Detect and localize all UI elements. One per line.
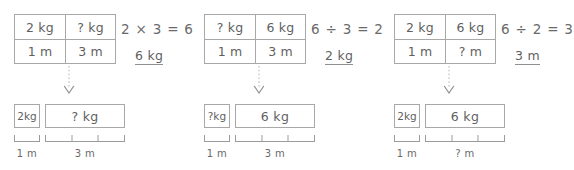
answer-text: 2 kg <box>325 48 353 65</box>
ratio-cell-top-right: 6 kg <box>255 15 305 39</box>
ratio-table: ? kg 6 kg 1 m 3 m <box>204 14 306 64</box>
equation-text: 6 ÷ 2 = 3 <box>501 21 574 37</box>
bar-segment-total: 6 kg <box>235 104 315 128</box>
ratio-cell-top-right: ? kg <box>65 15 115 39</box>
down-arrow-icon <box>442 66 456 98</box>
ratio-cell-bottom-left: 1 m <box>205 39 255 63</box>
down-arrow-icon <box>252 66 266 98</box>
problem-panel: ? kg 6 kg 1 m 3 m 6 ÷ 3 = 2 2 kg ?kg 6 k… <box>190 0 380 170</box>
ruler-unit-label: 1 m <box>394 148 420 159</box>
ruler-total-label: 3 m <box>235 148 315 159</box>
ruler-total-label: 3 m <box>45 148 125 159</box>
ratio-cell-bottom-right: 3 m <box>255 39 305 63</box>
ratio-cell-bottom-right: 3 m <box>65 39 115 63</box>
ratio-cell-top-left: 2 kg <box>395 15 445 39</box>
ruler-unit <box>14 134 40 144</box>
ratio-cell-bottom-left: 1 m <box>395 39 445 63</box>
ruler-unit <box>394 134 420 144</box>
ruler-total <box>45 134 125 144</box>
ruler-unit-label: 1 m <box>14 148 40 159</box>
ratio-cell-top-left: 2 kg <box>15 15 65 39</box>
ratio-cell-top-right: 6 kg <box>445 15 495 39</box>
bar-segment-unit: ?kg <box>204 104 230 128</box>
ruler-unit <box>204 134 230 144</box>
bar-segment-total: ? kg <box>45 104 125 128</box>
answer-text: 3 m <box>515 48 540 65</box>
ratio-cell-bottom-left: 1 m <box>15 39 65 63</box>
ratio-table: 2 kg ? kg 1 m 3 m <box>14 14 116 64</box>
ratio-cell-top-left: ? kg <box>205 15 255 39</box>
ratio-table: 2 kg 6 kg 1 m ? m <box>394 14 496 64</box>
equation-text: 2 × 3 = 6 <box>121 21 194 37</box>
answer-text: 6 kg <box>135 48 163 65</box>
bar-segment-unit: 2kg <box>14 104 40 128</box>
ruler-total-label: ? m <box>425 148 505 159</box>
ruler-total <box>235 134 315 144</box>
bar-segment-total: 6 kg <box>425 104 505 128</box>
down-arrow-icon <box>62 66 76 98</box>
bar-segment-unit: 2kg <box>394 104 420 128</box>
problem-panel: 2 kg 6 kg 1 m ? m 6 ÷ 2 = 3 3 m 2kg 6 kg… <box>380 0 570 170</box>
equation-text: 6 ÷ 3 = 2 <box>311 21 384 37</box>
ruler-total <box>425 134 505 144</box>
ratio-cell-bottom-right: ? m <box>445 39 495 63</box>
problem-panel: 2 kg ? kg 1 m 3 m 2 × 3 = 6 6 kg 2kg ? k… <box>0 0 190 170</box>
ruler-unit-label: 1 m <box>204 148 230 159</box>
